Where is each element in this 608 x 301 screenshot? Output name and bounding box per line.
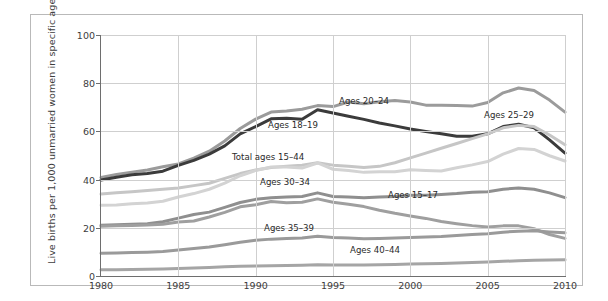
gridline-vertical <box>410 35 411 276</box>
series-annotation: Ages 18–19 <box>268 120 318 130</box>
x-tick-label: 2010 <box>553 280 577 291</box>
y-tick-mark <box>96 276 100 277</box>
series-annotation: Ages 20–24 <box>339 96 389 106</box>
y-tick-label: 20 <box>67 222 95 233</box>
y-tick-mark <box>96 228 100 229</box>
series-annotation: Ages 30–34 <box>260 177 310 187</box>
y-tick-mark <box>96 180 100 181</box>
series-annotation: Ages 40–44 <box>350 245 400 255</box>
series-annotation: Ages 15–17 <box>388 190 438 200</box>
y-tick-label: 40 <box>67 174 95 185</box>
gridline-vertical <box>333 35 334 276</box>
y-axis-label: Live births per 1,000 unmarried women in… <box>41 36 63 264</box>
series-annotation: Total ages 15–44 <box>232 152 304 162</box>
x-tick-label: 1980 <box>89 280 113 291</box>
series-annotation: Ages 25–29 <box>484 110 534 120</box>
y-tick-label: 80 <box>67 78 95 89</box>
gridline-vertical <box>488 35 489 276</box>
x-tick-label: 1995 <box>321 280 345 291</box>
y-tick-mark <box>96 35 100 36</box>
y-axis-label-text: Live births per 1,000 unmarried women in… <box>46 36 58 264</box>
x-tick-label: 2000 <box>398 280 422 291</box>
series-annotation: Ages 35–39 <box>264 223 314 233</box>
x-axis-line <box>101 276 566 277</box>
y-tick-label: 100 <box>67 30 95 41</box>
x-tick-label: 1985 <box>166 280 190 291</box>
plot-area <box>101 35 565 276</box>
chart-page: Live births per 1,000 unmarried women in… <box>0 0 608 301</box>
y-tick-mark <box>96 131 100 132</box>
x-tick-label: 2005 <box>476 280 500 291</box>
gridline-vertical <box>178 35 179 276</box>
y-tick-mark <box>96 83 100 84</box>
y-axis-line <box>100 35 101 277</box>
gridline-vertical <box>565 35 566 276</box>
y-tick-label: 60 <box>67 126 95 137</box>
x-tick-label: 1990 <box>244 280 268 291</box>
